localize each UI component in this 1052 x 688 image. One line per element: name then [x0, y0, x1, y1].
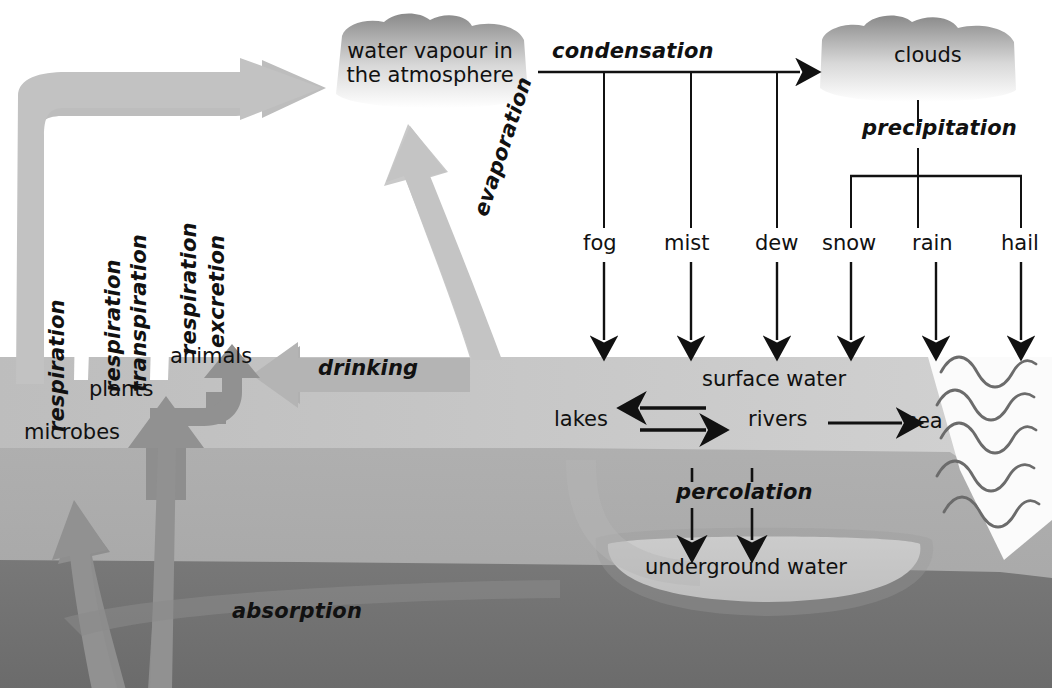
rivers-label: rivers: [748, 408, 807, 432]
condensation-form-mist: mist: [664, 232, 709, 256]
condensation-connector: [538, 72, 800, 228]
condensation-form-dew: dew: [755, 232, 798, 256]
absorption-label: absorption: [232, 600, 362, 624]
respiration-microbes-label: respiration: [46, 299, 70, 432]
microbes-label: microbes: [24, 421, 120, 445]
lakes-rivers-arrows: [640, 408, 706, 430]
precipitation-form-hail: hail: [1001, 232, 1039, 256]
water-vapour-label: water vapour in the atmosphere: [345, 40, 515, 87]
sea-label: sea: [906, 410, 943, 434]
precipitation-label: precipitation: [862, 117, 1017, 141]
water-vapour-line-1: water vapour in: [345, 40, 515, 64]
precipitation-form-snow: snow: [822, 232, 876, 256]
transpiration-plants-label: transpiration: [128, 234, 152, 392]
water-cycle-diagram: water vapour in the atmosphere clouds co…: [0, 0, 1052, 688]
precipitation-fall-arrows: [604, 262, 1021, 340]
lakes-label: lakes: [554, 408, 608, 432]
respiration-plants-label: respiration: [102, 259, 126, 392]
excretion-animals-label: excretion: [206, 235, 230, 348]
sea-waves: [937, 357, 1039, 527]
drinking-label: drinking: [318, 357, 418, 381]
condensation-label: condensation: [552, 40, 714, 64]
percolation-label: percolation: [676, 481, 813, 505]
surface-water-label: surface water: [702, 368, 846, 392]
underground-water-label: underground water: [645, 556, 847, 580]
condensation-form-fog: fog: [583, 232, 617, 256]
precipitation-form-rain: rain: [912, 232, 953, 256]
water-vapour-line-2: the atmosphere: [345, 64, 515, 88]
respiration-animals-label: respiration: [178, 222, 202, 355]
clouds-label: clouds: [894, 44, 962, 68]
